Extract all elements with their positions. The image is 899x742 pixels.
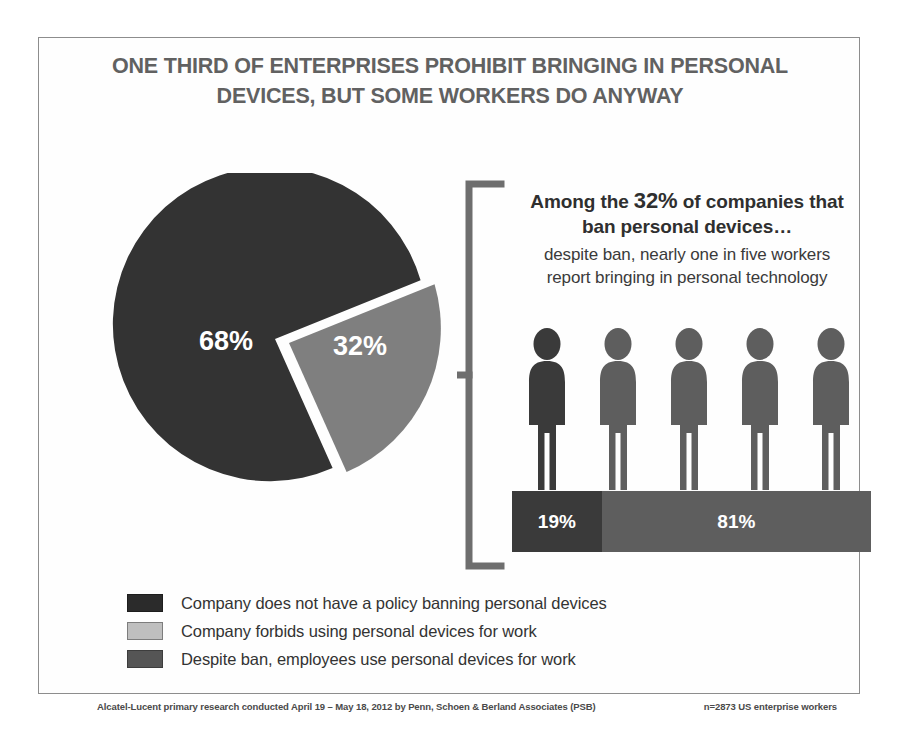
- legend-item-despite-ban[interactable]: Despite ban, employees use personal devi…: [127, 645, 727, 673]
- stacked-bar-chart: 19% 81%: [512, 491, 871, 552]
- pictogram-group: [509, 326, 877, 506]
- callout-panel: Among the 32% of companies that ban pers…: [491, 188, 883, 289]
- pie-chart: 68% 32%: [107, 173, 447, 513]
- callout-headline: Among the 32% of companies that ban pers…: [491, 188, 883, 239]
- footer-sample-size: n=2873 US enterprise workers: [704, 701, 837, 712]
- bar-segment-19[interactable]: 19%: [512, 491, 602, 552]
- callout-headline-after: of companies that: [678, 191, 844, 212]
- legend-label-despite-ban: Despite ban, employees use personal devi…: [181, 650, 576, 669]
- legend-label-no-policy: Company does not have a policy banning p…: [181, 594, 607, 613]
- legend-item-forbids[interactable]: Company forbids using personal devices f…: [127, 617, 727, 645]
- poster-frame: ONE THIRD OF ENTERPRISES PROHIBIT BRINGI…: [38, 37, 860, 694]
- legend-swatch-despite-ban: [127, 650, 163, 668]
- callout-subline-line2: report bringing in personal technology: [547, 268, 828, 287]
- person-icon-1: [529, 328, 565, 490]
- callout-subline-line1: despite ban, nearly one in five workers: [544, 245, 830, 264]
- person-icon-4: [742, 328, 778, 490]
- bar-segment-81[interactable]: 81%: [602, 491, 871, 552]
- legend-swatch-no-policy: [127, 594, 163, 612]
- callout-subline: despite ban, nearly one in five workers …: [491, 243, 883, 289]
- pie-chart-svg: 68% 32%: [107, 173, 447, 513]
- pie-label-68: 68%: [199, 326, 253, 356]
- callout-headline-percent: 32%: [634, 188, 678, 213]
- pie-label-32: 32%: [333, 331, 387, 361]
- page-title: ONE THIRD OF ENTERPRISES PROHIBIT BRINGI…: [71, 51, 829, 111]
- callout-headline-before: Among the: [530, 191, 634, 212]
- callout-headline-line2: ban personal devices…: [582, 216, 792, 237]
- legend-item-no-policy[interactable]: Company does not have a policy banning p…: [127, 589, 727, 617]
- pictogram-svg: [509, 326, 877, 506]
- legend-label-forbids: Company forbids using personal devices f…: [181, 622, 537, 641]
- person-icon-2: [600, 328, 636, 490]
- footer-source-note: Alcatel-Lucent primary research conducte…: [97, 701, 596, 712]
- person-icon-3: [671, 328, 707, 490]
- legend: Company does not have a policy banning p…: [127, 589, 727, 673]
- legend-swatch-forbids: [127, 622, 163, 640]
- person-icon-5: [813, 328, 849, 490]
